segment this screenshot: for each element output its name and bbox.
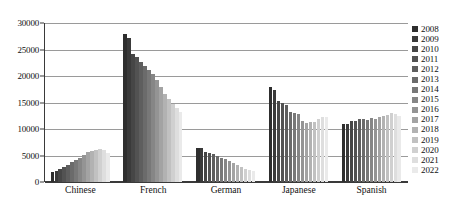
bar-series-container — [196, 23, 256, 182]
legend-label: 2010 — [421, 45, 439, 54]
legend-label: 2015 — [421, 95, 439, 104]
bar — [224, 159, 227, 182]
bar — [317, 119, 320, 182]
x-axis-category-label: Japanese — [262, 184, 335, 200]
y-axis-tick-label: 20000 — [17, 72, 39, 81]
legend-item[interactable]: 2022 — [412, 165, 466, 175]
bar — [135, 57, 138, 182]
legend-item[interactable]: 2010 — [412, 44, 466, 54]
bar — [55, 171, 58, 182]
bar — [350, 121, 353, 182]
legend-label: 2022 — [421, 166, 439, 175]
legend-item[interactable]: 2014 — [412, 85, 466, 95]
bar — [123, 34, 126, 182]
bar — [305, 123, 308, 182]
legend-item[interactable]: 2019 — [412, 135, 466, 145]
bar — [301, 121, 304, 182]
bar — [167, 99, 170, 182]
legend-item[interactable]: 2020 — [412, 145, 466, 155]
bar — [147, 70, 150, 182]
bar-group — [117, 23, 190, 182]
legend-item[interactable]: 2011 — [412, 54, 466, 64]
bar — [155, 80, 158, 182]
x-axis: ChineseFrenchGermanJapaneseSpanish — [44, 184, 408, 200]
bar — [313, 122, 316, 182]
bar — [281, 103, 284, 183]
bar — [390, 113, 393, 182]
legend: 2008200920102011201220132014201520162017… — [412, 24, 466, 175]
bar — [378, 117, 381, 182]
bar — [62, 167, 65, 182]
bar — [394, 114, 397, 182]
bar — [397, 116, 400, 182]
bar — [362, 119, 365, 182]
legend-label: 2018 — [421, 125, 439, 134]
bar — [163, 94, 166, 183]
bar-group — [262, 23, 335, 182]
bar — [212, 154, 215, 182]
gridline — [45, 182, 408, 183]
legend-item[interactable]: 2018 — [412, 125, 466, 135]
bar — [74, 160, 77, 182]
bar-series-container — [51, 23, 111, 182]
bar — [297, 114, 300, 182]
legend-swatch-icon — [412, 137, 418, 143]
bar — [244, 169, 247, 182]
bar — [236, 165, 239, 182]
legend-item[interactable]: 2016 — [412, 105, 466, 115]
chart-figure: 050001000015000200002500030000 ChineseFr… — [0, 0, 466, 224]
y-axis-tick-label: 25000 — [17, 45, 39, 54]
legend-label: 2020 — [421, 146, 439, 155]
legend-swatch-icon — [412, 46, 418, 52]
legend-label: 2009 — [421, 35, 439, 44]
bar — [285, 105, 288, 182]
bar — [151, 74, 154, 182]
bar-groups — [44, 23, 408, 182]
bar — [51, 172, 54, 182]
bar — [240, 167, 243, 182]
bar — [325, 117, 328, 182]
legend-swatch-icon — [412, 97, 418, 103]
bar — [82, 155, 85, 182]
legend-item[interactable]: 2017 — [412, 115, 466, 125]
bar — [208, 153, 211, 182]
legend-label: 2012 — [421, 65, 439, 74]
legend-item[interactable]: 2008 — [412, 24, 466, 34]
bar-series-container — [342, 23, 402, 182]
bar — [78, 158, 81, 182]
legend-item[interactable]: 2009 — [412, 34, 466, 44]
bar — [90, 151, 93, 182]
bar — [269, 87, 272, 182]
x-axis-category-label: Spanish — [335, 184, 408, 200]
bar-series-container — [269, 23, 329, 182]
legend-item[interactable]: 2021 — [412, 155, 466, 165]
bar — [94, 150, 97, 182]
bar — [228, 161, 231, 182]
y-axis-tick-label: 10000 — [17, 125, 39, 134]
legend-label: 2011 — [421, 55, 438, 64]
legend-item[interactable]: 2012 — [412, 64, 466, 74]
bar — [374, 119, 377, 182]
bar — [289, 112, 292, 182]
bar — [309, 122, 312, 182]
bar — [382, 116, 385, 182]
bar — [179, 112, 182, 182]
bar — [216, 156, 219, 182]
bar — [127, 38, 130, 182]
legend-swatch-icon — [412, 117, 418, 123]
figure-caption — [0, 206, 466, 224]
bar — [58, 169, 61, 182]
bar-group — [335, 23, 408, 182]
legend-swatch-icon — [412, 36, 418, 42]
bar — [370, 118, 373, 182]
bar — [131, 54, 134, 182]
legend-item[interactable]: 2015 — [412, 95, 466, 105]
bar — [70, 162, 73, 182]
legend-item[interactable]: 2013 — [412, 74, 466, 84]
bar — [204, 152, 207, 182]
bar — [354, 121, 357, 182]
legend-swatch-icon — [412, 147, 418, 153]
bar — [196, 148, 199, 182]
legend-label: 2019 — [421, 136, 439, 145]
bar — [159, 87, 162, 182]
